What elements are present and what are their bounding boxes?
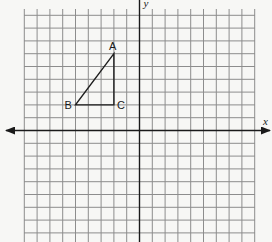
- vertex-label-a: A: [109, 40, 117, 52]
- vertex-label-c: C: [117, 99, 125, 111]
- vertex-label-b: B: [65, 99, 72, 111]
- vertex-labels: ABC: [65, 40, 125, 111]
- coordinate-plane: x y ABC: [0, 0, 272, 242]
- y-axis-label: y: [143, 0, 149, 9]
- x-axis-label: x: [262, 115, 268, 127]
